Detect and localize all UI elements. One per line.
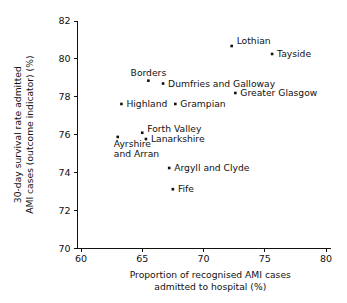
y-tick-label: 70 xyxy=(58,243,70,254)
scatter-plot-canvas: 707274767880826065707580 LothianTaysideB… xyxy=(0,0,347,303)
y-axis-title-line1: 30-day survival rate admitted xyxy=(12,66,23,203)
data-point-marker xyxy=(172,188,175,191)
y-tick-label: 78 xyxy=(58,91,70,102)
x-axis-title-line2: admitted to hospital (%) xyxy=(154,281,266,292)
scatter-plot-figure: 707274767880826065707580 LothianTaysideB… xyxy=(0,0,347,303)
data-point-label: Highland xyxy=(126,98,167,109)
data-point-marker xyxy=(271,53,274,56)
data-point-label: Argyll and Clyde xyxy=(174,162,250,173)
y-tick-label: 76 xyxy=(58,129,70,140)
data-point-marker xyxy=(234,92,237,95)
y-axis-title-line2: AMI cases (outcome indicator) (%) xyxy=(24,55,35,213)
data-point-label: Fife xyxy=(178,183,194,194)
x-tick-label: 65 xyxy=(136,253,148,264)
y-tick-label: 82 xyxy=(58,15,70,26)
x-tick-label: 60 xyxy=(75,253,87,264)
x-tick-label: 70 xyxy=(197,253,209,264)
data-point-marker xyxy=(174,103,177,106)
data-point-label: Lothian xyxy=(237,35,271,46)
data-point-marker xyxy=(230,45,233,48)
data-point-label: Grampian xyxy=(180,98,225,109)
cropped-caption xyxy=(0,295,347,303)
y-tick-label: 72 xyxy=(58,205,70,216)
data-point-marker xyxy=(168,167,171,170)
data-point-marker xyxy=(162,82,165,85)
x-tick-label: 75 xyxy=(259,253,271,264)
label-line-2: and Arran xyxy=(114,148,160,159)
data-point-label: Greater Glasgow xyxy=(240,87,317,98)
y-tick-label: 80 xyxy=(58,53,70,64)
y-tick-label: 74 xyxy=(58,167,70,178)
x-tick-label: 80 xyxy=(320,253,332,264)
data-point-marker xyxy=(141,131,144,134)
data-points-group: LothianTaysideBordersDumfries and Gallow… xyxy=(114,35,318,194)
data-point-marker xyxy=(120,103,123,106)
data-point-label: Lanarkshire xyxy=(151,133,205,144)
data-point-marker xyxy=(147,79,150,82)
data-point-marker xyxy=(145,138,148,141)
data-point-label: Tayside xyxy=(276,48,311,59)
data-point-label: Borders xyxy=(131,67,167,78)
x-axis-title-line1: Proportion of recognised AMI cases xyxy=(130,269,291,280)
